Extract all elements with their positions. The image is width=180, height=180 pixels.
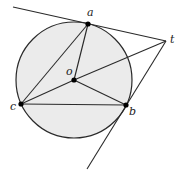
label-o: o: [66, 65, 73, 78]
geometry-diagram: aocbt: [0, 0, 180, 180]
point-a: [85, 21, 90, 26]
label-b: b: [129, 105, 136, 118]
label-c: c: [10, 100, 16, 113]
point-b: [123, 102, 128, 107]
label-a: a: [87, 6, 94, 19]
point-c: [18, 101, 23, 106]
point-o: [71, 77, 76, 82]
label-t: t: [170, 33, 175, 46]
